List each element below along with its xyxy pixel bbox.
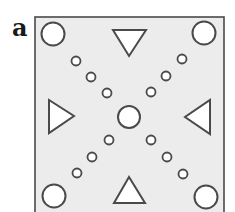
small-circle-top-right xyxy=(147,88,156,97)
small-circle-bottom-right xyxy=(179,170,188,179)
center-circle xyxy=(118,106,140,128)
small-circle-top-left xyxy=(72,57,81,66)
corner-circle-bottom-right xyxy=(195,186,218,209)
symmetry-diagram xyxy=(0,0,235,212)
small-circle-bottom-right xyxy=(147,136,156,145)
small-circle-top-left xyxy=(87,73,96,82)
small-circle-bottom-left xyxy=(105,136,114,145)
small-circle-top-right xyxy=(162,72,171,81)
small-circle-bottom-left xyxy=(88,153,97,162)
corner-circle-top-left xyxy=(42,23,65,46)
corner-circle-bottom-left xyxy=(43,185,66,208)
small-circle-top-right xyxy=(178,55,187,64)
small-circle-top-left xyxy=(103,89,112,98)
small-circle-bottom-left xyxy=(73,169,82,178)
corner-circle-top-right xyxy=(193,22,216,45)
small-circle-bottom-right xyxy=(163,153,172,162)
